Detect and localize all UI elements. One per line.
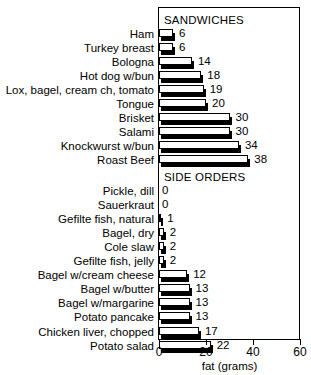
bar: [159, 214, 161, 226]
bar: [159, 43, 173, 55]
category-label: Sauerkraut: [98, 199, 154, 212]
bar-value-label: 0: [162, 198, 168, 211]
bar-face: [159, 99, 206, 107]
category-label: Bagel, dry: [102, 227, 154, 240]
category-label: Turkey breast: [84, 42, 154, 55]
bar-row: Bologna14: [0, 56, 311, 70]
category-label: Bagel w/butter: [80, 283, 154, 296]
bar-face: [159, 29, 173, 37]
bar-value-label: 30: [236, 111, 249, 124]
bar-row: Lox, bagel, cream ch, tomato19: [0, 84, 311, 98]
category-label: Roast Beef: [97, 154, 154, 167]
bar-row: Gefilte fish, jelly2: [0, 255, 311, 269]
bar-value-label: 30: [236, 125, 249, 138]
bar: [159, 57, 192, 69]
bar-face: [159, 228, 164, 236]
bar: [159, 312, 190, 324]
bar-row: Sauerkraut0: [0, 199, 311, 213]
bar-face: [159, 214, 161, 222]
bar: [159, 71, 201, 83]
bar-face: [159, 85, 204, 93]
category-label: Gefilte fish, natural: [58, 213, 154, 226]
category-label: Bagel w/cream cheese: [38, 269, 154, 282]
bar-face: [159, 71, 201, 79]
section-caption-sandwiches: SANDWICHES: [164, 15, 244, 27]
bar-face: [159, 312, 190, 320]
bar-face: [159, 155, 248, 163]
bar-shadow: [161, 218, 163, 226]
category-label: Chicken liver, chopped: [38, 326, 154, 339]
bar-row: Potato pancake13: [0, 311, 311, 325]
bar: [159, 113, 230, 125]
bar-row: Bagel w/margarine13: [0, 297, 311, 311]
bar: [159, 298, 190, 310]
bar-row: Tongue20: [0, 98, 311, 112]
bar: [159, 228, 164, 240]
bar-value-label: 17: [205, 325, 218, 338]
x-tick-label: 0: [144, 346, 174, 359]
bar-face: [159, 113, 230, 121]
bar-value-label: 6: [179, 27, 185, 40]
category-label: Bologna: [112, 56, 154, 69]
category-label: Knockwurst w/bun: [61, 140, 154, 153]
bar-row: Gefilte fish, natural1: [0, 213, 311, 227]
bar-value-label: 19: [210, 83, 223, 96]
bar-face: [159, 298, 190, 306]
bar-value-label: 12: [193, 268, 206, 281]
bar-row: Turkey breast6: [0, 42, 311, 56]
bar-face: [159, 43, 173, 51]
bar: [159, 256, 164, 268]
section-caption-side-orders: SIDE ORDERS: [164, 172, 245, 184]
bar-face: [159, 284, 190, 292]
bar-face: [159, 57, 192, 65]
x-tick-label: 60: [285, 346, 311, 359]
category-label: Salami: [119, 126, 154, 139]
bar-row: Ham6: [0, 28, 311, 42]
category-label: Hot dog w/bun: [80, 70, 154, 83]
bar: [159, 327, 199, 339]
bar-value-label: 18: [207, 69, 220, 82]
bar-value-label: 34: [245, 139, 258, 152]
bar-row: Hot dog w/bun18: [0, 70, 311, 84]
bar-row: Knockwurst w/bun34: [0, 140, 311, 154]
bar-row: Roast Beef38: [0, 154, 311, 168]
category-label: Brisket: [119, 112, 154, 125]
bar-face: [159, 242, 164, 250]
bar: [159, 85, 204, 97]
category-label: Lox, bagel, cream ch, tomato: [6, 84, 154, 97]
bar-value-label: 1: [167, 212, 173, 225]
bar-face: [159, 127, 230, 135]
bar-value-label: 2: [170, 226, 176, 239]
category-label: Bagel w/margarine: [58, 297, 154, 310]
bar: [159, 99, 206, 111]
bar: [159, 200, 160, 212]
bar-value-label: 13: [196, 296, 209, 309]
category-label: Gefilte fish, jelly: [73, 255, 154, 268]
bar-face: [159, 270, 187, 278]
category-label: Pickle, dill: [103, 185, 154, 198]
bar-value-label: 20: [212, 97, 225, 110]
bar-value-label: 14: [198, 55, 211, 68]
bar-row: Brisket30: [0, 112, 311, 126]
bar-row: Bagel w/cream cheese12: [0, 269, 311, 283]
bar-value-label: 0: [162, 184, 168, 197]
bar-value-label: 38: [254, 153, 267, 166]
bar-face: [159, 141, 239, 149]
bar: [159, 242, 164, 254]
bar: [159, 155, 248, 167]
bar-row: Pickle, dill0: [0, 185, 311, 199]
bar: [159, 127, 230, 139]
bar: [159, 284, 190, 296]
bar-row: Chicken liver, chopped17: [0, 326, 311, 340]
bar-value-label: 13: [196, 282, 209, 295]
bar-row: Salami30: [0, 126, 311, 140]
bar-face: [159, 327, 199, 335]
category-label: Potato pancake: [74, 311, 154, 324]
bar-row: Cole slaw2: [0, 241, 311, 255]
x-tick-label: 40: [238, 346, 268, 359]
bar-value-label: 2: [170, 254, 176, 267]
bar-value-label: 2: [170, 240, 176, 253]
x-axis-line: [158, 339, 301, 340]
category-label: Tongue: [116, 98, 154, 111]
bar: [159, 186, 160, 198]
